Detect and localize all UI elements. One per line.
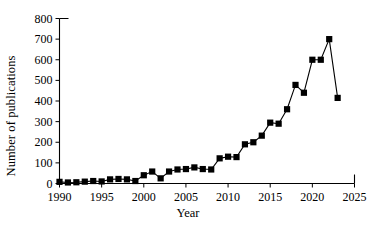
data-point-marker xyxy=(233,154,239,160)
data-point-marker xyxy=(318,57,324,63)
data-point-marker xyxy=(242,141,248,147)
data-point-marker xyxy=(132,178,138,184)
y-axis-ticks: 0100200300400500600700800 xyxy=(35,12,60,191)
y-tick-label: 800 xyxy=(35,12,53,26)
data-point-marker xyxy=(56,179,62,185)
series-line xyxy=(60,39,338,182)
data-point-marker xyxy=(82,179,88,185)
data-point-marker xyxy=(284,106,290,112)
data-point-marker xyxy=(292,82,298,88)
y-tick-label: 200 xyxy=(35,135,53,149)
data-point-marker xyxy=(115,176,121,182)
x-tick-label: 2025 xyxy=(343,190,367,204)
data-point-marker xyxy=(65,179,71,185)
x-tick-label: 2020 xyxy=(300,190,324,204)
data-point-markers xyxy=(56,36,340,186)
data-point-marker xyxy=(225,154,231,160)
data-point-marker xyxy=(90,178,96,184)
y-tick-label: 300 xyxy=(35,115,53,129)
x-tick-label: 1990 xyxy=(48,190,72,204)
data-point-marker xyxy=(141,172,147,178)
data-point-marker xyxy=(124,176,130,182)
data-point-marker xyxy=(276,121,282,127)
data-point-marker xyxy=(107,176,113,182)
data-point-marker xyxy=(149,168,155,174)
data-point-marker xyxy=(73,179,79,185)
y-tick-label: 400 xyxy=(35,94,53,108)
data-point-marker xyxy=(166,168,172,174)
y-tick-label: 0 xyxy=(47,177,53,191)
data-point-marker xyxy=(250,139,256,145)
data-point-marker xyxy=(208,166,214,172)
publications-line-chart: Number of publications 01002003004005006… xyxy=(0,0,376,232)
x-tick-label: 1995 xyxy=(90,190,114,204)
data-point-marker xyxy=(259,133,265,139)
data-point-marker xyxy=(326,36,332,42)
x-tick-label: 2010 xyxy=(216,190,240,204)
data-point-marker xyxy=(301,90,307,96)
x-axis-ticks: 19901995200020052010201520202025 xyxy=(48,184,367,204)
plot-area: 0100200300400500600700800 19901995200020… xyxy=(0,0,376,232)
data-point-marker xyxy=(335,95,341,101)
y-tick-label: 700 xyxy=(35,32,53,46)
data-point-marker xyxy=(191,164,197,170)
x-tick-label: 2000 xyxy=(132,190,156,204)
x-axis-label: Year xyxy=(0,206,376,221)
y-tick-label: 500 xyxy=(35,73,53,87)
data-point-marker xyxy=(174,166,180,172)
data-point-marker xyxy=(158,175,164,181)
data-point-marker xyxy=(200,166,206,172)
data-point-marker xyxy=(267,120,273,126)
x-tick-label: 2005 xyxy=(174,190,198,204)
data-point-marker xyxy=(217,155,223,161)
axis-frame xyxy=(60,19,355,184)
y-tick-label: 600 xyxy=(35,53,53,67)
y-tick-label: 100 xyxy=(35,156,53,170)
data-point-marker xyxy=(309,57,315,63)
x-tick-label: 2015 xyxy=(258,190,282,204)
data-point-marker xyxy=(183,166,189,172)
data-point-marker xyxy=(99,178,105,184)
